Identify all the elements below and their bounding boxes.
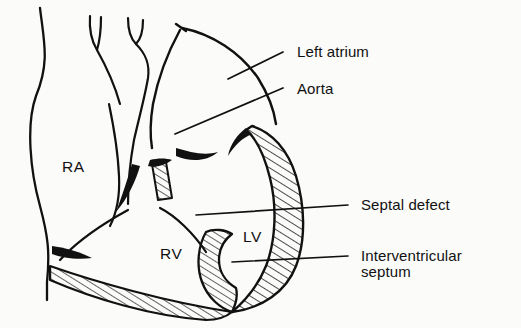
label-lv: LV (243, 228, 262, 245)
label-rv: RV (160, 245, 183, 262)
label-left-atrium: Left atrium (297, 43, 369, 60)
heart-diagram-figure: RA RV LV Left atrium Aorta Septal defect… (0, 0, 521, 328)
label-aorta: Aorta (297, 80, 334, 97)
label-interventricular-septum-line2: septum (361, 263, 411, 280)
heart-diagram-svg: RA RV LV Left atrium Aorta Septal defect… (0, 0, 521, 328)
label-interventricular-septum-line1: Interventricular (361, 247, 462, 264)
label-ra: RA (62, 158, 85, 175)
label-septal-defect: Septal defect (361, 196, 451, 213)
